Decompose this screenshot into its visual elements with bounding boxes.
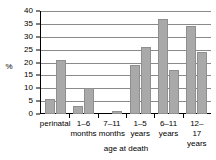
bar-group xyxy=(41,11,69,114)
bar xyxy=(169,70,179,114)
y-axis-tick-label: 30 xyxy=(24,33,33,41)
x-axis-tick-mark xyxy=(98,114,99,118)
x-axis-ticks xyxy=(41,114,211,118)
x-axis-tick-label: 7–11 months xyxy=(99,119,125,139)
bar-group xyxy=(126,11,154,114)
bar xyxy=(84,88,94,114)
bar-group xyxy=(98,11,126,114)
y-axis-ticks: 0510152025303540 xyxy=(0,11,40,114)
x-axis-tick-label: perinatal xyxy=(40,119,71,129)
bar xyxy=(141,47,151,114)
bar xyxy=(73,106,83,114)
x-axis-tick-label: 6–11 years xyxy=(159,119,179,139)
y-axis-tick-label: 15 xyxy=(24,71,33,79)
bar-group xyxy=(183,11,211,114)
x-axis-tick-mark xyxy=(183,114,184,118)
y-axis-tick-label: 25 xyxy=(24,46,33,54)
x-axis-tick-label: 1–6 months xyxy=(70,119,96,139)
x-axis-tick-mark xyxy=(154,114,155,118)
y-axis-tick-label: 5 xyxy=(29,97,33,105)
bar-chart: % 0510152025303540 perinatal1–6 months7–… xyxy=(0,0,216,160)
y-axis-tick-label: 40 xyxy=(24,7,33,15)
bars-layer xyxy=(41,11,211,114)
bar-group xyxy=(154,11,182,114)
x-axis-tick-mark xyxy=(69,114,70,118)
bar xyxy=(56,60,66,114)
x-axis-title: age at death xyxy=(41,144,211,154)
x-axis-tick-label: 1–5 years xyxy=(130,119,150,139)
bar-group xyxy=(69,11,97,114)
y-axis-tick-label: 0 xyxy=(29,110,33,118)
x-axis-tick-mark xyxy=(126,114,127,118)
y-axis-tick-label: 20 xyxy=(24,59,33,67)
y-axis-tick-label: 10 xyxy=(24,84,33,92)
bar xyxy=(45,99,55,114)
y-axis-tick-label: 35 xyxy=(24,20,33,28)
bar xyxy=(158,19,168,114)
bar xyxy=(130,65,140,114)
bar xyxy=(186,26,196,114)
bar xyxy=(197,52,207,114)
x-axis-tick-labels: perinatal1–6 months7–11 months1–5 years6… xyxy=(41,119,211,145)
